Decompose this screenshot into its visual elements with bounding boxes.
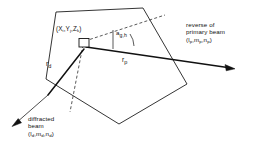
angle-arc <box>130 34 134 46</box>
primary-beam-vector <box>86 47 231 68</box>
d-n-subscript: d <box>49 133 52 138</box>
d-m-subscript: d <box>41 133 44 138</box>
angle-label: ag,h <box>116 29 127 38</box>
point-coordinates-label: (Xi,Yj,Zk) <box>56 25 81 33</box>
paren-close: ) <box>79 25 81 32</box>
r-diffracted-label: rd <box>46 60 51 70</box>
diffraction-geometry-figure: (Xi,Yj,Zk) ag,h rd rp reverse of primary… <box>0 0 256 146</box>
diffracted-beam-line-1: diffracted <box>28 115 54 122</box>
y-subscript: j <box>70 28 71 33</box>
primary-beam-arrowhead <box>225 65 235 71</box>
p-n-subscript: p <box>207 39 210 44</box>
diffracted-beam-line-2: beam <box>28 122 54 129</box>
diffracted-beam-vector <box>48 49 84 95</box>
rd-subscript: d <box>48 63 51 69</box>
x-subscript: i <box>63 28 64 33</box>
dashed-plane-trace-lower <box>70 45 83 112</box>
angle-subscript: g,h <box>120 32 127 38</box>
rp-subscript: p <box>124 59 127 65</box>
diffracted-beam-caption: diffracted beam (ld,md,nd) <box>28 115 54 137</box>
z-subscript: k <box>77 28 79 33</box>
d-l-subscript: d <box>32 133 35 138</box>
primary-beam-line-1: reverse of <box>186 21 225 28</box>
r-primary-label: rp <box>122 56 127 66</box>
p-m-subscript: p <box>199 39 202 44</box>
primary-beam-caption: reverse of primary beam (lp,mp,np) <box>186 21 225 43</box>
scattering-point-marker <box>79 39 89 48</box>
primary-beam-line-2: primary beam <box>186 28 225 35</box>
x-symbol: X <box>58 25 62 32</box>
primary-beam-direction-cosines: (lp,mp,np) <box>186 36 225 43</box>
diffracted-beam-direction-cosines: (ld,md,nd) <box>28 130 54 137</box>
p-l-subscript: p <box>190 39 193 44</box>
